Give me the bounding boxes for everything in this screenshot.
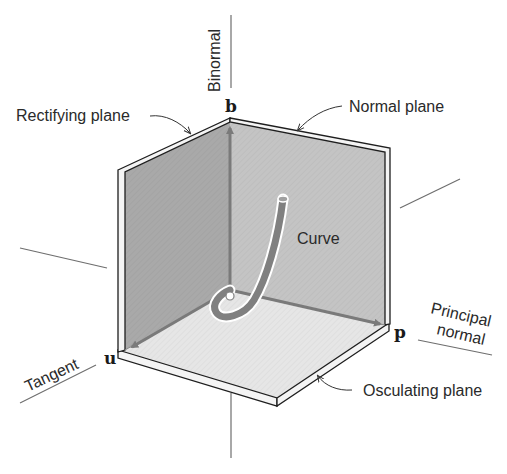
normal-plane-pointer [298, 106, 342, 130]
principal-normal-line-back [20, 248, 107, 268]
tangent-axis-label: Tangent [22, 355, 81, 395]
rectifying-plane-pointer [150, 116, 190, 133]
rectifying-plane-label: Rectifying plane [16, 107, 130, 124]
curve-label: Curve [297, 230, 340, 247]
principal-normal-vector-label: p [394, 322, 406, 342]
tangent-axis-line-back [400, 179, 460, 208]
frenet-frame-diagram: Binormal Tangent Principal normal b u p … [0, 0, 507, 474]
normal-plane-label: Normal plane [349, 98, 444, 115]
tangent-vector-label: u [104, 348, 116, 368]
osculating-plane-label: Osculating plane [363, 382, 482, 399]
binormal-vector-label: b [225, 96, 237, 116]
osculating-plane-pointer [318, 376, 352, 390]
origin-point [226, 292, 234, 300]
binormal-axis-label: Binormal [206, 29, 223, 92]
